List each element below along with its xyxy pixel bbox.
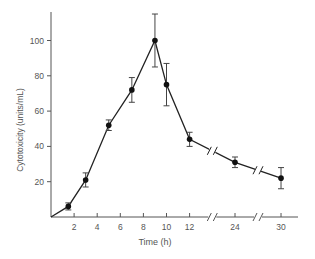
x-tick-label: 8 <box>141 222 146 232</box>
y-tick-label: 20 <box>35 177 45 187</box>
x-tick-label: 12 <box>185 222 195 232</box>
data-series <box>51 14 284 217</box>
data-point-marker <box>106 122 112 128</box>
data-point-marker <box>129 87 135 93</box>
line-break-gap <box>255 165 261 175</box>
y-tick-label: 80 <box>35 71 45 81</box>
line-break-gap <box>209 146 215 156</box>
data-point-marker <box>83 177 89 183</box>
data-point-marker <box>187 137 193 143</box>
axes: 20406080100246810122430 <box>30 12 298 232</box>
x-tick-label: 4 <box>95 222 100 232</box>
x-tick-label: 2 <box>72 222 77 232</box>
data-point-marker <box>66 204 72 210</box>
x-tick-label: 24 <box>230 222 240 232</box>
y-tick-label: 100 <box>30 36 44 46</box>
y-tick-label: 60 <box>35 106 45 116</box>
data-point-marker <box>278 175 284 181</box>
x-tick-label: 6 <box>118 222 123 232</box>
cytotoxicity-chart: 20406080100246810122430 Time (h) Cytotox… <box>0 0 315 259</box>
y-tick-label: 40 <box>35 141 45 151</box>
data-point-marker <box>232 159 238 165</box>
data-point-marker <box>164 82 170 88</box>
y-axis-label: Cytotoxicity (units/mL) <box>15 88 25 172</box>
x-tick-label: 10 <box>162 222 172 232</box>
data-point-marker <box>152 38 158 44</box>
x-axis-label: Time (h) <box>138 237 171 247</box>
x-tick-label: 30 <box>276 222 286 232</box>
